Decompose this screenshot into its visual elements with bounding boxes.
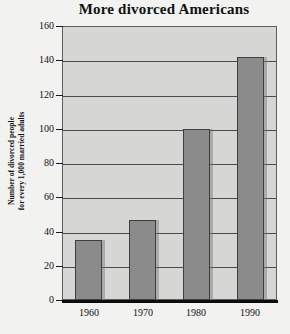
chart-title: More divorced Americans (40, 1, 288, 18)
y-axis-tick-label: 0 (14, 295, 54, 305)
y-axis-tick (56, 266, 63, 267)
bar (237, 57, 264, 300)
y-axis-tick (56, 232, 63, 233)
x-axis-tick-label: 1990 (226, 307, 274, 318)
x-axis-tick-label: 1980 (172, 307, 220, 318)
y-axis-tick (56, 60, 63, 61)
y-axis-tick (56, 95, 63, 96)
y-axis-tick-label: 80 (14, 158, 54, 168)
x-axis-line (62, 300, 278, 303)
y-axis-tick-label: 60 (14, 192, 54, 202)
bar-chart-figure: More divorced Americans Number of divorc… (0, 0, 290, 334)
y-axis-tick-label: 100 (14, 124, 54, 134)
y-axis-tick (56, 129, 63, 130)
y-axis-tick (56, 26, 63, 27)
y-axis-tick-label: 120 (14, 90, 54, 100)
y-axis-tick (56, 197, 63, 198)
y-axis-tick-label: 160 (14, 21, 54, 31)
y-axis-tick-label: 140 (14, 55, 54, 65)
x-axis-tick-label: 1960 (65, 307, 113, 318)
y-axis-tick (56, 163, 63, 164)
bar (183, 129, 210, 300)
bar (75, 240, 102, 300)
x-axis-tick-label: 1970 (119, 307, 167, 318)
bar (129, 220, 156, 300)
y-axis-tick-label: 40 (14, 227, 54, 237)
y-axis-tick-label: 20 (14, 261, 54, 271)
